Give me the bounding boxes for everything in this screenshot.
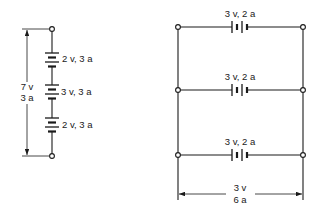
parallel-terminal <box>301 153 306 158</box>
parallel-terminal <box>176 153 181 158</box>
series-total-current: 3 a <box>20 92 34 103</box>
series-circuit: 7 v 3 a 2 v, 3 a 3 v, 3 a <box>20 27 93 159</box>
series-cell-label: 2 v, 3 a <box>62 119 93 130</box>
parallel-terminal <box>176 25 181 30</box>
parallel-cell-label: 3 v, 2 a <box>225 136 256 147</box>
series-cell-2: 3 v, 3 a <box>45 85 92 99</box>
series-terminal-top <box>50 27 55 32</box>
series-total-dimension: 7 v 3 a <box>20 29 49 156</box>
parallel-total-current: 6 a <box>233 194 247 205</box>
series-total-voltage: 7 v <box>21 81 34 92</box>
series-cell-label: 3 v, 3 a <box>61 86 92 97</box>
series-cell-3: 2 v, 3 a <box>45 118 93 132</box>
parallel-terminal <box>301 25 306 30</box>
series-cell-label: 2 v, 3 a <box>62 53 93 64</box>
parallel-cell-label: 3 v, 2 a <box>225 8 256 19</box>
parallel-terminal <box>301 88 306 93</box>
parallel-terminal <box>176 88 181 93</box>
parallel-cell-2: 3 v, 2 a <box>176 71 306 96</box>
series-terminal-bottom <box>50 154 55 159</box>
parallel-total-voltage: 3 v <box>234 182 247 193</box>
parallel-total-dimension: 3 v 6 a <box>179 182 302 205</box>
parallel-circuit: 3 v, 2 a 3 v, 2 a 3 v, 2 a <box>176 8 306 205</box>
parallel-cell-label: 3 v, 2 a <box>225 71 256 82</box>
series-cell-1: 2 v, 3 a <box>45 53 93 67</box>
circuit-diagram: 7 v 3 a 2 v, 3 a 3 v, 3 a <box>0 0 321 213</box>
parallel-cell-3: 3 v, 2 a <box>176 136 306 161</box>
parallel-cell-1: 3 v, 2 a <box>176 8 306 33</box>
